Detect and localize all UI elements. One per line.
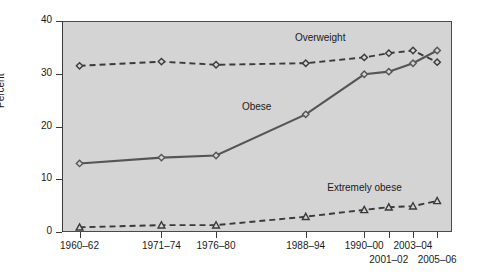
x-tick-mark: [306, 232, 307, 238]
y-axis-title: Percent: [0, 74, 6, 108]
data-point-marker: [76, 160, 82, 166]
y-tick-label: 30: [0, 67, 52, 78]
x-tick-mark: [413, 232, 414, 238]
data-point-marker: [76, 224, 83, 230]
data-point-marker: [158, 58, 164, 64]
data-point-marker: [302, 213, 309, 219]
x-tick-label: 1976–80: [197, 240, 236, 251]
x-tick-mark: [80, 232, 81, 238]
data-point-marker: [158, 154, 164, 160]
x-tick-label: 1988–94: [286, 240, 325, 251]
series-label-extremely-obese: Extremely obese: [327, 182, 401, 193]
data-point-marker: [361, 206, 368, 212]
data-point-marker: [213, 222, 220, 228]
data-point-marker: [434, 197, 441, 203]
series-line-overweight: [80, 51, 438, 66]
y-tick-mark: [56, 232, 62, 233]
data-point-marker: [76, 63, 82, 69]
series-label-overweight: Overweight: [295, 32, 346, 43]
x-tick-label: 2003–04: [394, 240, 433, 251]
data-point-marker: [434, 59, 440, 65]
x-tick-mark: [364, 232, 365, 238]
y-tick-label: 0: [0, 225, 52, 236]
data-point-marker: [386, 50, 392, 56]
x-tick-mark: [389, 232, 390, 238]
x-tick-label: 2001–02: [369, 254, 408, 265]
chart-figure: Percent 010203040 1960–621971–741976–801…: [0, 0, 482, 274]
series-label-obese: Obese: [242, 101, 271, 112]
data-point-marker: [385, 204, 392, 210]
y-tick-label: 40: [0, 14, 52, 25]
data-point-marker: [386, 68, 392, 74]
y-tick-label: 20: [0, 120, 52, 131]
chart-lines: [62, 21, 452, 232]
data-point-marker: [303, 60, 309, 66]
data-point-marker: [158, 222, 165, 228]
x-tick-label: 2005–06: [418, 254, 457, 265]
series-line-extremely-obese: [80, 201, 438, 227]
x-tick-label: 1971–74: [142, 240, 181, 251]
data-point-marker: [213, 152, 219, 158]
x-tick-mark: [161, 232, 162, 238]
data-point-marker: [410, 203, 417, 209]
data-point-marker: [410, 47, 416, 53]
data-point-marker: [213, 62, 219, 68]
y-tick-label: 10: [0, 172, 52, 183]
x-tick-mark: [216, 232, 217, 238]
x-tick-label: 1960–62: [60, 240, 99, 251]
x-tick-label: 1990–00: [345, 240, 384, 251]
x-tick-mark: [437, 232, 438, 238]
data-point-marker: [361, 54, 367, 60]
